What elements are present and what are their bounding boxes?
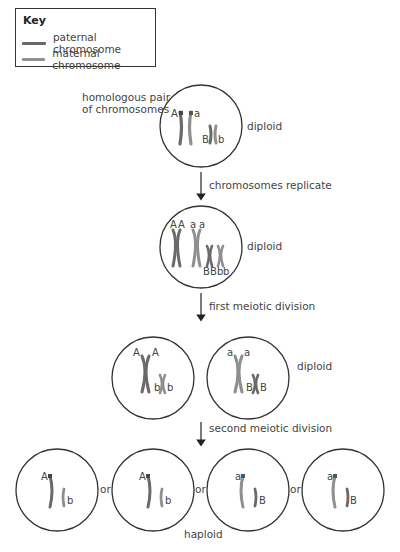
allele-label: A	[133, 347, 140, 358]
allele-label: a	[235, 471, 241, 482]
cell-stage1	[160, 85, 242, 167]
cell-stage4-4	[302, 449, 384, 531]
allele-label: a	[327, 471, 333, 482]
allele-label: B	[210, 266, 217, 277]
allele-label: b	[218, 134, 224, 145]
chromosome-maternal-short	[215, 126, 216, 143]
cell-stage4-1	[16, 449, 98, 531]
or-separator: or	[100, 483, 111, 495]
allele-label: a	[227, 347, 233, 358]
allele-label: A	[152, 347, 159, 358]
allele-label: b	[167, 382, 173, 393]
caption-of-chromosomes: of chromosomes	[82, 103, 169, 115]
allele-label: B	[203, 266, 210, 277]
allele-label: b	[223, 266, 229, 277]
or-separator: or	[290, 483, 301, 495]
ploidy-label-stage3: diploid	[297, 360, 332, 372]
ploidy-label-stage4: haploid	[184, 528, 223, 540]
allele-label: B	[260, 382, 267, 393]
allele-label: A	[178, 219, 185, 230]
chromosome-maternal-long	[190, 112, 192, 144]
allele-label: B	[246, 382, 253, 393]
allele-label: B	[202, 134, 209, 145]
cell-stage4-2	[112, 449, 194, 531]
allele-label: b	[154, 382, 160, 393]
allele-label: A	[41, 471, 48, 482]
or-separator: or	[195, 483, 206, 495]
allele-label: b	[165, 495, 171, 506]
allele-label: b	[67, 495, 73, 506]
allele-label: A	[139, 471, 146, 482]
caption-homologous-pair: homologous pair	[82, 91, 170, 103]
allele-label: a	[244, 347, 250, 358]
ploidy-label-stage1: diploid	[247, 120, 282, 132]
ploidy-label-stage2: diploid	[247, 240, 282, 252]
step-label-replicate: chromosomes replicate	[209, 179, 332, 191]
allele-label: A	[170, 219, 177, 230]
allele-label: a	[194, 108, 200, 119]
allele-label: B	[350, 495, 357, 506]
cell-stage4-3	[207, 449, 289, 531]
allele-label: a	[199, 219, 205, 230]
allele-label: A	[171, 108, 178, 119]
step-label-first-division: first meiotic division	[209, 300, 315, 312]
allele-label: a	[190, 219, 196, 230]
chromosome-paternal-long	[180, 112, 182, 144]
meiosis-diagram	[0, 0, 400, 552]
chromosome-paternal-short	[210, 126, 211, 143]
step-label-second-division: second meiotic division	[209, 422, 332, 434]
allele-label: B	[259, 495, 266, 506]
